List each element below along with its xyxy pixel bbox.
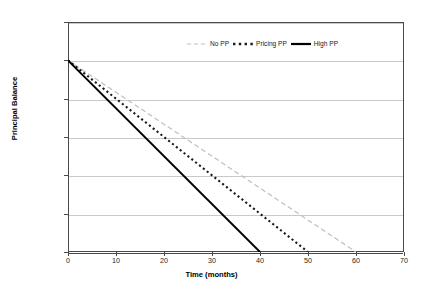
x-axis-tick-label: 40 [245,257,275,264]
x-axis-tick-label: 0 [53,257,83,264]
x-axis-title: Time (months) [0,270,423,279]
x-axis-tick-label: 30 [197,257,227,264]
legend-label: High PP [314,41,338,48]
chart-legend: No PPPricing PPHigh PP [186,38,338,50]
legend-item-no-pp[interactable]: No PP [186,40,229,49]
x-axis-tick-mark [116,252,117,256]
series-line-no-pp [68,60,356,252]
x-axis-tick-mark [260,252,261,256]
series-layer [68,22,404,252]
legend-swatch-icon [186,40,208,49]
x-axis-tick-mark [68,252,69,256]
x-axis-tick-mark [164,252,165,256]
gridline [69,253,403,254]
y-axis-title: Principal Balance [10,59,19,159]
legend-label: Pricing PP [256,41,287,48]
line-chart: Principal Balance $0$2,000$4,000$6,000$8… [0,0,423,291]
series-line-high-pp [68,60,260,252]
x-axis-tick-label: 70 [389,257,419,264]
legend-swatch-icon [232,40,254,49]
legend-label: No PP [210,41,229,48]
x-axis-tick-mark [356,252,357,256]
x-axis-tick-mark [404,252,405,256]
series-line-pricing-pp [68,60,308,252]
legend-swatch-icon [290,40,312,49]
x-axis-tick-label: 60 [341,257,371,264]
x-axis-tick-label: 50 [293,257,323,264]
legend-item-high-pp[interactable]: High PP [290,40,338,49]
x-axis-tick-mark [308,252,309,256]
legend-item-pricing-pp[interactable]: Pricing PP [232,40,287,49]
x-axis-tick-label: 10 [101,257,131,264]
x-axis-tick-mark [212,252,213,256]
x-axis-tick-label: 20 [149,257,179,264]
